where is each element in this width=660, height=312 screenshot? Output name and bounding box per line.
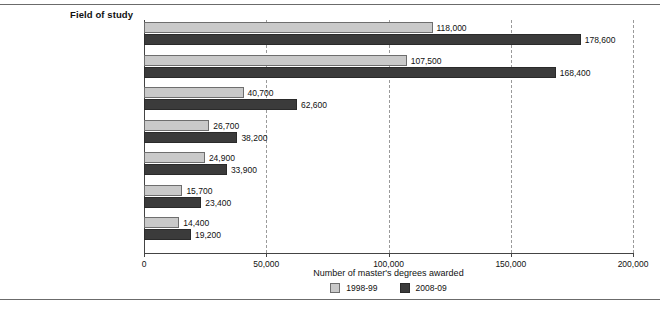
tick-mark-50000 bbox=[266, 253, 267, 257]
bar-value-label: 26,700 bbox=[213, 121, 239, 131]
bar-series2 bbox=[144, 197, 201, 208]
bar-value-label: 19,200 bbox=[195, 230, 221, 240]
bar-value-label: 168,400 bbox=[560, 68, 591, 78]
bar-value-label: 24,900 bbox=[209, 153, 235, 163]
bar-series1 bbox=[144, 217, 179, 228]
legend-swatch-icon bbox=[400, 283, 410, 293]
bar-series2 bbox=[144, 67, 556, 78]
bar-series2 bbox=[144, 164, 227, 175]
bottom-divider-rule bbox=[0, 299, 660, 300]
tick-mark-150000 bbox=[511, 253, 512, 257]
bar-series1 bbox=[144, 87, 244, 98]
tick-mark-0 bbox=[144, 253, 145, 257]
gridline-150000 bbox=[511, 20, 512, 253]
bar-series1 bbox=[144, 22, 433, 33]
bar-value-label: 107,500 bbox=[411, 56, 442, 66]
figure-container: Field of study 050,000100,000150,000200,… bbox=[0, 0, 660, 312]
bar-value-label: 118,000 bbox=[437, 23, 467, 33]
legend-item[interactable]: 1998-99 bbox=[330, 283, 377, 293]
bar-series1 bbox=[144, 55, 407, 66]
legend-swatch-icon bbox=[330, 283, 340, 293]
bar-series1 bbox=[144, 152, 205, 163]
legend-label: 2008-09 bbox=[416, 283, 447, 293]
bar-series2 bbox=[144, 132, 237, 143]
bar-series1 bbox=[144, 120, 209, 131]
top-divider-rule bbox=[0, 4, 660, 5]
source-note-clipped bbox=[0, 305, 660, 312]
bar-value-label: 38,200 bbox=[241, 133, 267, 143]
bar-value-label: 15,700 bbox=[186, 186, 212, 196]
legend-item[interactable]: 2008-09 bbox=[400, 283, 447, 293]
bar-value-label: 40,700 bbox=[248, 88, 274, 98]
plot-area: 050,000100,000150,000200,000 118,000178,… bbox=[144, 20, 633, 253]
tick-mark-100000 bbox=[389, 253, 390, 257]
gridline-200000 bbox=[633, 20, 634, 253]
bar-value-label: 62,600 bbox=[301, 100, 327, 110]
bar-value-label: 14,400 bbox=[183, 218, 209, 228]
bar-series2 bbox=[144, 99, 297, 110]
legend-label: 1998-99 bbox=[346, 283, 377, 293]
bar-value-label: 178,600 bbox=[585, 35, 616, 45]
bar-series2 bbox=[144, 34, 581, 45]
bar-value-label: 23,400 bbox=[205, 198, 231, 208]
chart-axis-title-field-of-study: Field of study bbox=[70, 9, 133, 20]
bar-value-label: 33,900 bbox=[231, 165, 257, 175]
bar-series2 bbox=[144, 229, 191, 240]
chart-legend: 1998-992008-09 bbox=[144, 283, 633, 293]
x-axis-title: Number of master's degrees awarded bbox=[144, 268, 633, 278]
tick-mark-200000 bbox=[633, 253, 634, 257]
bar-series1 bbox=[144, 185, 182, 196]
